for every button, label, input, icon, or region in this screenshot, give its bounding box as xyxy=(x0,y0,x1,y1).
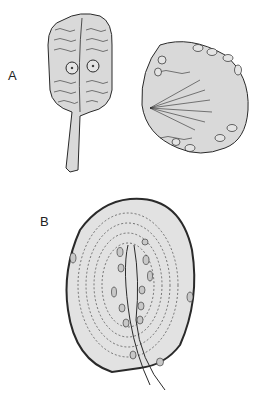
rounded-cell xyxy=(142,42,248,153)
club-cell xyxy=(48,14,112,172)
lamellated-corpuscle xyxy=(67,199,195,390)
illustration xyxy=(0,0,268,403)
